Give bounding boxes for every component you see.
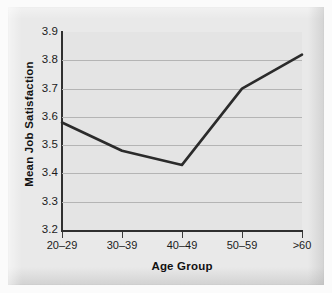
- y-axis-title: Mean Job Satisfaction: [23, 33, 35, 215]
- x-axis-tick-label: 50–59: [227, 240, 258, 251]
- x-axis-tick-label: 40–49: [167, 240, 198, 251]
- x-axis-tick-mark: [62, 232, 63, 238]
- x-axis-tick-mark: [122, 232, 123, 238]
- x-axis-tick-label: >60: [293, 240, 312, 251]
- x-axis-tick-labels: 20–2930–3940–4950–59>60: [62, 240, 302, 254]
- data-series-line: [62, 32, 302, 230]
- x-axis-tick-mark: [242, 232, 243, 238]
- x-axis-tick-label: 20–29: [47, 240, 78, 251]
- chart-figure: 3.93.83.73.63.53.43.33.2 20–2930–3940–49…: [0, 0, 332, 293]
- x-axis-tick-mark: [182, 232, 183, 238]
- plot-panel: [62, 32, 302, 230]
- x-axis-tick-label: 30–39: [107, 240, 138, 251]
- x-axis-tick-mark: [302, 232, 303, 238]
- x-axis-title: Age Group: [62, 260, 302, 272]
- y-axis-tick-label: 3.2: [24, 224, 58, 236]
